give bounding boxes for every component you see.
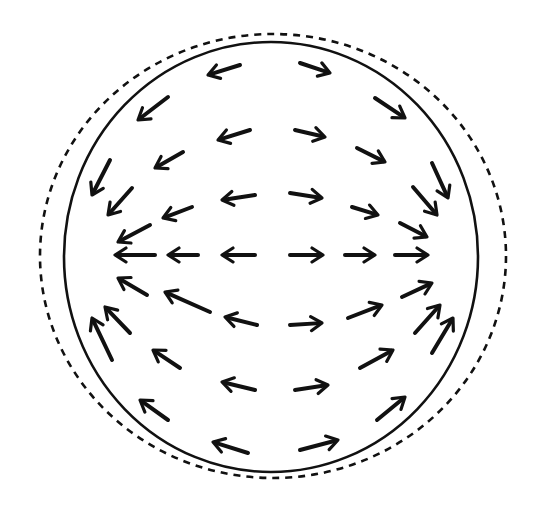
arrow-icon <box>360 349 393 368</box>
arrow-icon <box>208 65 240 78</box>
arrow-icon <box>115 248 155 262</box>
arrow-field <box>90 63 453 453</box>
arrow-icon <box>153 350 180 368</box>
arrow-icon <box>377 397 405 420</box>
arrow-icon <box>225 313 257 327</box>
arrow-icon <box>163 207 192 221</box>
arrow-icon <box>222 191 255 205</box>
arrow-icon <box>218 130 250 143</box>
arrow-icon <box>91 160 110 195</box>
arrow-icon <box>348 302 382 318</box>
arrow-icon <box>290 189 322 203</box>
arrow-icon <box>295 128 325 142</box>
arrow-icon <box>168 248 198 262</box>
arrow-icon <box>90 318 112 360</box>
arrow-icon <box>118 278 147 295</box>
arrow-icon <box>165 290 210 312</box>
arrow-icon <box>415 305 440 333</box>
arrow-icon <box>222 378 255 392</box>
arrow-icon <box>290 248 323 262</box>
arrow-icon <box>432 318 453 353</box>
arrow-icon <box>222 248 255 262</box>
arrow-icon <box>300 63 330 76</box>
arrow-icon <box>400 223 427 238</box>
arrow-icon <box>118 225 150 243</box>
arrow-icon <box>395 248 428 262</box>
arrow-icon <box>213 439 248 453</box>
arrow-icon <box>108 188 132 215</box>
arrow-icon <box>375 98 405 118</box>
arrow-icon <box>290 317 322 331</box>
arrow-icon <box>300 436 338 450</box>
arrow-icon <box>138 97 168 120</box>
arrow-icon <box>413 187 437 215</box>
vector-field-diagram <box>0 0 547 507</box>
arrow-icon <box>357 148 385 163</box>
arrow-icon <box>140 400 168 420</box>
arrow-icon <box>432 163 450 198</box>
arrow-icon <box>105 307 130 333</box>
arrow-icon <box>295 380 328 394</box>
arrow-icon <box>352 205 378 218</box>
deformed-outline-dashed <box>40 34 506 478</box>
arrow-icon <box>402 281 432 297</box>
arrow-icon <box>345 248 375 262</box>
arrow-icon <box>155 152 183 169</box>
